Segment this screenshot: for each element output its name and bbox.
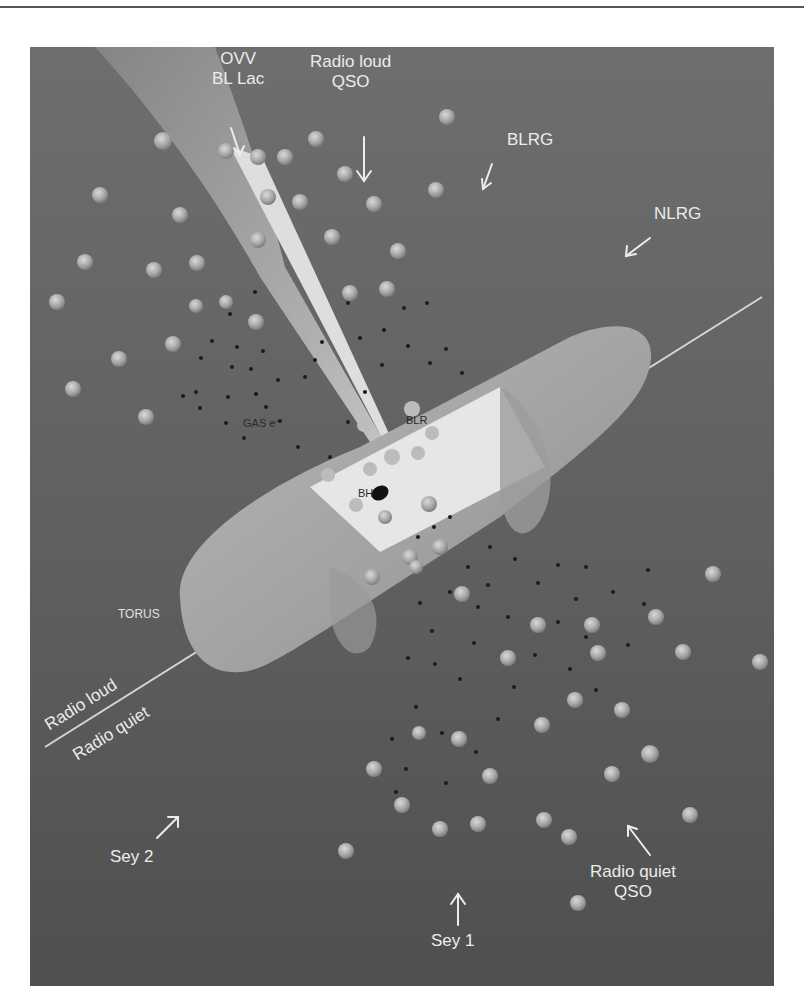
label-torus: TORUS bbox=[118, 607, 160, 621]
arrow-radio-loud-qso bbox=[357, 137, 371, 181]
label-blrg: BLRG bbox=[507, 130, 553, 150]
label-radio-loud: Radio loud bbox=[310, 52, 391, 72]
torus bbox=[180, 326, 651, 672]
label-gas-electrons: GAS e⁻ bbox=[243, 417, 281, 430]
label-qso-upper: QSO bbox=[310, 72, 391, 92]
label-radio-loud-qso: Radio loud QSO bbox=[310, 52, 391, 92]
label-radio-quiet: Radio quiet bbox=[590, 862, 676, 882]
agn-diagram-panel: OVV BL Lac Radio loud QSO BLRG NLRG Sey … bbox=[30, 47, 774, 986]
label-ovv-bl-lac: OVV BL Lac bbox=[212, 49, 264, 89]
label-radio-quiet-qso: Radio quiet QSO bbox=[590, 862, 676, 902]
label-sey2: Sey 2 bbox=[110, 847, 153, 867]
label-nlrg: NLRG bbox=[654, 204, 701, 224]
arrow-sey2 bbox=[157, 817, 178, 838]
label-ovv: OVV bbox=[212, 49, 264, 69]
label-bh: BH bbox=[358, 487, 373, 499]
arrow-blrg bbox=[482, 164, 492, 189]
label-blr: BLR bbox=[406, 414, 427, 426]
arrow-nlrg bbox=[626, 238, 650, 256]
label-bl-lac: BL Lac bbox=[212, 69, 264, 89]
jet-wide bbox=[95, 47, 390, 457]
label-sey1: Sey 1 bbox=[431, 931, 474, 951]
arrow-radio-quiet-qso bbox=[628, 826, 650, 855]
agn-diagram-scene bbox=[30, 47, 774, 986]
label-qso-lower: QSO bbox=[590, 882, 676, 902]
arrow-sey1 bbox=[451, 894, 465, 925]
page-top-rule bbox=[0, 6, 804, 8]
